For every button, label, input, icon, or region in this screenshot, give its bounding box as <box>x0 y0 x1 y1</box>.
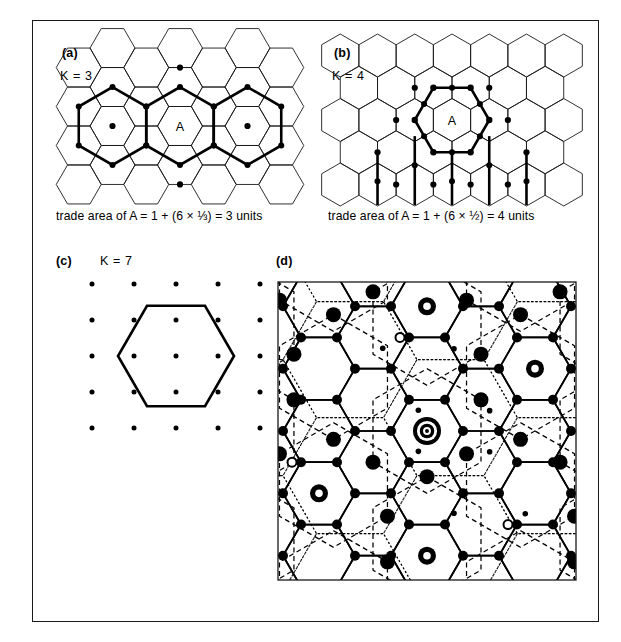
node-tier5-small <box>487 449 493 455</box>
hexagon-cell <box>340 66 377 109</box>
trade-area-edge-midpoint-dot <box>421 101 427 107</box>
trade-area-vertex-dot <box>177 162 183 168</box>
market-center-dot <box>486 85 492 91</box>
node-tier3-large <box>366 284 381 299</box>
node-tier4-medium <box>440 395 450 405</box>
node-tier4-medium <box>512 395 522 405</box>
panel-b-diagram: A <box>328 42 576 206</box>
panel-d-label: (d) <box>276 254 293 268</box>
node-tier4-medium <box>278 488 288 498</box>
trade-area-vertex-dot <box>467 85 473 91</box>
settlement-dot <box>216 318 221 323</box>
node-tier3-large <box>380 509 395 524</box>
node-tier4-medium <box>386 364 396 374</box>
node-tier3-large <box>286 347 301 362</box>
panel-d: (d) <box>276 254 586 594</box>
panel-c-diagram <box>56 270 276 450</box>
market-center-dot <box>412 85 418 91</box>
node-tier3-large <box>420 469 435 484</box>
hexagon-cell <box>124 165 169 204</box>
panel-b-center-label: A <box>448 114 457 128</box>
node-tier4-medium <box>548 520 558 530</box>
figure-root: (a) K = 3 A trade area of A = 1 + (6 × ⅓… <box>0 0 621 642</box>
node-tier2-ring-hole <box>423 303 431 311</box>
node-tier4-medium <box>278 364 288 374</box>
hierarchy-hexagon-level3 <box>383 360 517 476</box>
settlement-dot <box>258 426 263 431</box>
hierarchy-hexagon-level1 <box>499 462 571 524</box>
node-tier5-small <box>380 345 386 351</box>
node-tier4-medium <box>494 364 504 374</box>
route-node-dot <box>449 178 455 184</box>
node-tier2-ring-hole <box>423 552 431 560</box>
hexagon-cell <box>526 131 563 174</box>
node-tier4-medium <box>350 551 360 561</box>
settlement-dot <box>90 318 95 323</box>
trade-area-vertex-dot <box>245 162 251 168</box>
market-center-dot <box>177 64 183 70</box>
settlement-dot <box>258 282 263 287</box>
node-tier5-small <box>451 346 457 352</box>
node-tier4-medium <box>566 426 576 436</box>
settlement-dot <box>216 282 221 287</box>
node-tier4-medium <box>404 520 414 530</box>
node-tier2-ring-hole <box>315 490 323 498</box>
settlement-dot <box>132 390 137 395</box>
node-tier4-medium <box>386 426 396 436</box>
panel-c-k-value: K = 7 <box>100 254 133 268</box>
node-tier4-medium <box>548 395 558 405</box>
panel-a-center-label: A <box>176 120 185 134</box>
panel-a-caption: trade area of A = 1 + (6 × ⅓) = 3 units <box>56 209 262 223</box>
node-tier3-large <box>567 554 582 569</box>
node-tier1-bullseye-core <box>425 429 429 433</box>
market-center-dot <box>393 117 399 123</box>
trade-area-vertex-dot <box>430 85 436 91</box>
node-tier4-medium <box>386 488 396 498</box>
settlement-dot <box>90 426 95 431</box>
settlement-dot <box>90 354 95 359</box>
hexagon-cell <box>340 131 377 174</box>
market-center-dot <box>468 181 474 187</box>
settlement-dot <box>174 390 179 395</box>
node-tier6-open <box>288 458 297 467</box>
node-tier4-medium <box>494 488 504 498</box>
trade-area-vertex-dot <box>110 84 116 90</box>
node-tier4-medium <box>512 457 522 467</box>
node-tier4-medium <box>566 301 576 311</box>
hierarchy-hexagon-level2 <box>467 315 575 440</box>
trade-area-vertex-dot <box>211 142 217 148</box>
node-tier3-large <box>553 455 568 470</box>
settlement-dot <box>258 318 263 323</box>
panel-a-diagram: A <box>68 42 292 206</box>
settlement-dot <box>258 390 263 395</box>
node-tier4-medium <box>278 426 288 436</box>
node-tier3-large <box>513 432 528 447</box>
settlement-dot <box>174 282 179 287</box>
node-tier3-large <box>366 455 381 470</box>
node-tier5-small <box>522 511 528 517</box>
node-tier5-small <box>451 511 457 517</box>
node-tier4-medium <box>440 332 450 342</box>
settlement-dot <box>216 426 221 431</box>
panel-b-caption: trade area of A = 1 + (6 × ½) = 4 units <box>328 209 534 223</box>
node-tier6-open <box>504 520 513 529</box>
node-tier4-medium <box>404 457 414 467</box>
node-tier4-medium <box>458 488 468 498</box>
node-tier5-small <box>487 408 493 414</box>
node-tier4-medium <box>512 332 522 342</box>
node-tier3-large <box>459 293 474 308</box>
node-tier3-large <box>286 392 301 407</box>
node-tier3-large <box>326 307 341 322</box>
node-tier4-medium <box>296 332 306 342</box>
node-tier4-medium <box>548 332 558 342</box>
node-tier6-open <box>396 333 405 342</box>
node-tier4-medium <box>296 520 306 530</box>
route-node-dot <box>412 162 418 168</box>
trade-area-vertex-dot <box>412 117 418 123</box>
settlement-dot <box>216 390 221 395</box>
hexagon-cell <box>489 131 526 174</box>
trade-area-vertex-dot <box>467 149 473 155</box>
market-center-dot <box>109 123 115 129</box>
trade-area-vertex-dot <box>143 142 149 148</box>
node-tier3-large <box>474 392 489 407</box>
